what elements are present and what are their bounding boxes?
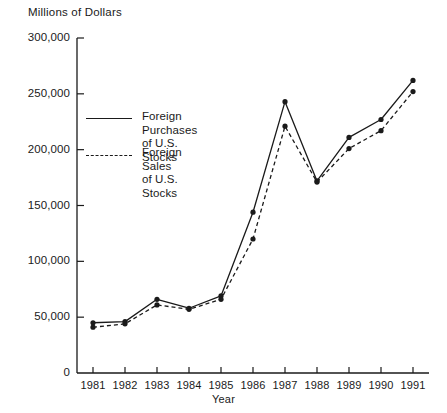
y-tick-label: 200,000 [0, 144, 70, 155]
legend-swatch-dashed-icon [86, 155, 132, 156]
y-tick-label: 50,000 [0, 311, 70, 322]
y-tick-label: 100,000 [0, 255, 70, 266]
y-tick-label: 150,000 [0, 200, 70, 211]
y-tick-label: 300,000 [0, 32, 70, 43]
x-tick-label: 1991 [393, 379, 433, 391]
legend-swatch-solid-icon [86, 118, 132, 119]
y-tick-label: 250,000 [0, 88, 70, 99]
legend-label-foreign-sales: Foreign Sales of U.S. Stocks [142, 146, 182, 200]
y-tick-label: 0 [0, 367, 70, 378]
chart-container: Millions of Dollars 300,000250,000200,00… [0, 0, 447, 413]
x-axis-title: Year [0, 393, 447, 405]
